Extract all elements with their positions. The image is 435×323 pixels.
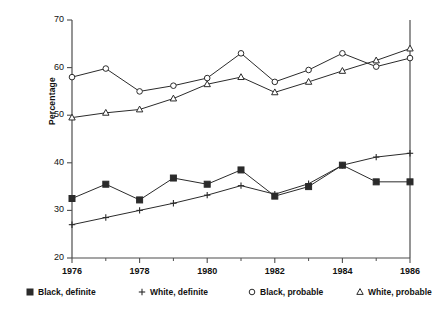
x-tick-label: 1980 — [185, 266, 229, 276]
legend-item: Black, definite — [22, 286, 96, 298]
series-path — [72, 153, 410, 224]
plus-marker-icon — [134, 286, 150, 298]
x-tick-label: 1982 — [253, 266, 297, 276]
series-3 — [69, 51, 413, 95]
axes — [67, 20, 410, 263]
series-path — [72, 49, 410, 118]
x-tick-label: 1984 — [320, 266, 364, 276]
y-tick-label: 50 — [38, 109, 64, 119]
series-2 — [69, 150, 413, 228]
legend-label: Black, probable — [260, 287, 323, 297]
legend-label: White, probable — [368, 287, 432, 297]
square-marker-icon — [238, 167, 244, 173]
series-path — [72, 53, 410, 91]
circle-marker-icon — [103, 66, 109, 72]
plot-area — [72, 20, 410, 258]
y-tick-label: 70 — [38, 14, 64, 24]
triangle-marker-icon — [352, 286, 368, 298]
circle-marker-icon — [306, 67, 312, 73]
line-chart: Percentage 203040506070 1976197819801982… — [0, 0, 435, 323]
legend-label: Black, definite — [38, 287, 96, 297]
triangle-marker-icon — [407, 45, 413, 51]
y-tick-label: 60 — [38, 62, 64, 72]
legend-item: White, probable — [352, 286, 432, 298]
x-tick-label: 1976 — [50, 266, 94, 276]
circle-marker-icon — [137, 89, 143, 95]
y-tick-label: 30 — [38, 204, 64, 214]
y-tick-label: 20 — [38, 252, 64, 262]
x-tick-label: 1986 — [388, 266, 432, 276]
circle-marker-icon — [249, 289, 255, 295]
circle-marker-icon — [373, 64, 379, 70]
plot-svg — [72, 20, 410, 258]
circle-marker-icon — [69, 74, 75, 80]
circle-marker-icon — [244, 286, 260, 298]
square-marker-icon — [22, 286, 38, 298]
square-marker-icon — [103, 181, 109, 187]
circle-marker-icon — [340, 51, 346, 57]
legend-item: Black, probable — [244, 286, 323, 298]
triangle-marker-icon — [238, 74, 244, 80]
circle-marker-icon — [238, 51, 244, 57]
legend-item: White, definite — [134, 286, 208, 298]
square-marker-icon — [69, 196, 75, 202]
square-marker-icon — [137, 197, 143, 203]
square-marker-icon — [204, 181, 210, 187]
triangle-marker-icon — [357, 289, 363, 295]
square-marker-icon — [170, 175, 176, 181]
square-marker-icon — [27, 289, 33, 295]
legend-label: White, definite — [150, 287, 208, 297]
series-group — [69, 45, 413, 228]
y-axis-title: Percentage — [47, 41, 57, 161]
x-tick-label: 1978 — [118, 266, 162, 276]
circle-marker-icon — [171, 83, 177, 89]
square-marker-icon — [373, 179, 379, 185]
square-marker-icon — [407, 179, 413, 185]
circle-marker-icon — [407, 55, 413, 61]
y-tick-label: 40 — [38, 157, 64, 167]
circle-marker-icon — [272, 79, 278, 85]
